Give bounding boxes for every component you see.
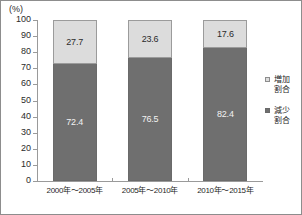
- y-axis-tick-label: 50: [21, 95, 31, 106]
- y-axis-tick-mark: [33, 20, 37, 21]
- x-axis-separator-tick: [188, 178, 189, 182]
- bar-value-label-decrease: 72.4: [66, 117, 83, 127]
- y-axis-tick-label: 70: [21, 62, 31, 73]
- stacked-bar[interactable]: 72.427.7: [53, 20, 97, 181]
- y-axis-tick-mark: [33, 181, 37, 182]
- y-axis-tick-mark: [33, 149, 37, 150]
- bar-group: 76.523.6: [128, 20, 172, 181]
- bar-segment-decrease[interactable]: 76.5: [128, 58, 172, 181]
- x-axis-separator-tick: [112, 178, 113, 182]
- chart-legend: 増加 割合 減少 割合: [265, 75, 302, 137]
- y-axis-tick-label: 30: [21, 127, 31, 138]
- legend-item-decrease: 減少 割合: [265, 106, 302, 126]
- y-axis-tick-label: 40: [21, 111, 31, 122]
- bar-group: 72.427.7: [53, 20, 97, 181]
- bar-segment-increase[interactable]: 27.7: [53, 20, 97, 64]
- y-axis-tick-mark: [33, 117, 37, 118]
- bar-value-label-increase: 27.7: [66, 37, 83, 47]
- legend-label-increase-line2: 割合: [274, 85, 302, 95]
- y-axis-tick-mark: [33, 101, 37, 102]
- bar-segment-increase[interactable]: 23.6: [128, 20, 172, 58]
- legend-item-increase: 増加 割合: [265, 75, 302, 95]
- y-axis-tick-mark: [33, 165, 37, 166]
- stacked-bar[interactable]: 82.417.6: [203, 20, 247, 181]
- plot-area: 1009080706050403020100 72.427.776.523.68…: [37, 20, 263, 182]
- y-axis-line: [37, 20, 38, 182]
- x-axis-line: [37, 181, 263, 182]
- bar-segment-decrease[interactable]: 82.4: [203, 48, 247, 181]
- bar-value-label-increase: 17.6: [217, 29, 234, 39]
- bar-value-label-decrease: 82.4: [217, 109, 234, 119]
- legend-label-increase-line1: 増加: [274, 75, 302, 85]
- y-axis-tick-label: 60: [21, 78, 31, 89]
- y-axis-tick-mark: [33, 68, 37, 69]
- y-axis-tick-label: 0: [26, 175, 31, 186]
- y-axis-tick-label: 10: [21, 159, 31, 170]
- dark-gray-swatch-icon: [265, 108, 270, 113]
- x-axis-category-label: 2005年～2010年: [112, 186, 187, 196]
- y-axis-tick-label: 80: [21, 46, 31, 57]
- y-axis-tick-mark: [33, 84, 37, 85]
- bar-value-label-decrease: 76.5: [142, 114, 159, 124]
- legend-label-decrease-line2: 割合: [274, 116, 302, 126]
- x-axis-category-label: 2000年～2005年: [37, 186, 112, 196]
- legend-label-decrease-line1: 減少: [274, 106, 302, 116]
- y-axis-tick-label: 20: [21, 143, 31, 154]
- y-axis-tick-mark: [33, 133, 37, 134]
- chart-figure: (%) 1009080706050403020100 72.427.776.52…: [0, 0, 302, 215]
- y-axis-tick-label: 100: [16, 14, 31, 25]
- x-axis-category-label: 2010年～2015年: [188, 186, 263, 196]
- y-axis-tick-mark: [33, 52, 37, 53]
- bar-segment-decrease[interactable]: 72.4: [53, 64, 97, 181]
- light-gray-swatch-icon: [265, 77, 270, 82]
- y-axis-tick-label: 90: [21, 30, 31, 41]
- bar-segment-increase[interactable]: 17.6: [203, 20, 247, 48]
- bar-group: 82.417.6: [203, 20, 247, 181]
- y-axis-tick-mark: [33, 36, 37, 37]
- bar-value-label-increase: 23.6: [142, 34, 159, 44]
- stacked-bar[interactable]: 76.523.6: [128, 20, 172, 181]
- y-axis-unit-label: (%): [9, 4, 23, 14]
